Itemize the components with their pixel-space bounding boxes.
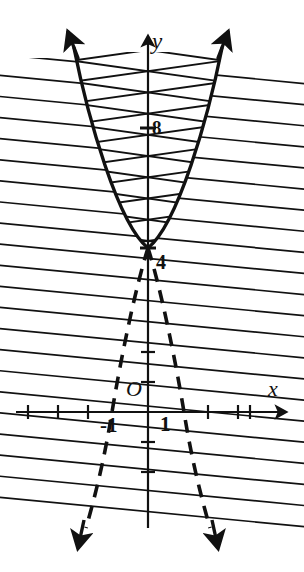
- axes-group: [16, 36, 286, 528]
- x-axis-label: x: [268, 378, 278, 400]
- y-axis-label: y: [152, 30, 162, 53]
- vertex-value-label: 4: [156, 252, 166, 272]
- figure-canvas: y x O -1 1 4 8: [0, 0, 304, 572]
- graph-svg: [0, 0, 304, 572]
- inner-hatch-group: [24, 16, 275, 255]
- upper-value-label: 8: [152, 118, 162, 137]
- x-tick-label-pos-one: 1: [160, 414, 171, 435]
- x-tick-label-neg-one: -1: [100, 415, 118, 436]
- origin-label: O: [126, 378, 142, 400]
